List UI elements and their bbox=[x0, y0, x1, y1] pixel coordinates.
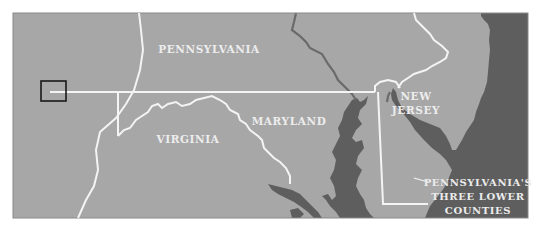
historical-map: PENNSYLVANIA NEW JERSEY MARYLAND VIRGINI… bbox=[0, 0, 556, 234]
label-virginia: VIRGINIA bbox=[155, 133, 219, 145]
map-canvas: PENNSYLVANIA NEW JERSEY MARYLAND VIRGINI… bbox=[0, 0, 556, 234]
label-lower-counties-line1: PENNSYLVANIA'S bbox=[424, 177, 533, 188]
label-pennsylvania: PENNSYLVANIA bbox=[158, 43, 260, 55]
label-maryland: MARYLAND bbox=[252, 115, 327, 127]
label-lower-counties-line2: THREE LOWER bbox=[431, 191, 525, 202]
label-lower-counties-line3: COUNTIES bbox=[445, 205, 511, 216]
label-new-jersey-line2: JERSEY bbox=[391, 104, 440, 116]
label-new-jersey-line1: NEW bbox=[400, 90, 431, 102]
